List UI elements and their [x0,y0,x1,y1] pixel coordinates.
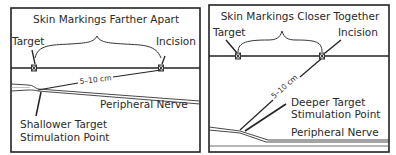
left-target-pointer [32,50,35,64]
diagram-canvas: Skin Markings Farther Apart Target Incis… [0,0,396,155]
right-target-label: Target [212,26,245,38]
right-target-x-mark-icon [236,53,241,59]
left-trajectory-line [113,70,161,77]
right-nerve-label: Peripheral Nerve [291,126,379,138]
left-stim-pointer [36,92,41,116]
right-panel-title: Skin Markings Closer Together [221,10,380,22]
right-trajectory-line [300,59,321,77]
right-incision-x-mark-icon [320,53,325,59]
left-panel-title: Skin Markings Farther Apart [33,13,179,25]
right-distance-brace [238,31,322,52]
left-target-x-mark-icon [32,65,37,71]
right-panel: Skin Markings Closer Together Target Inc… [209,5,389,152]
right-incision-label: Incision [338,26,378,38]
right-stim-label-line2: Stimulation Point [291,108,380,120]
left-target-label: Target [11,35,44,47]
right-target-pointer [226,40,237,53]
right-incision-pointer [325,40,341,53]
left-nerve-label: Peripheral Nerve [100,98,188,110]
left-incision-pointer [162,56,165,64]
left-distance-brace [35,36,161,58]
right-stim-label-line1: Deeper Target [291,96,365,108]
left-incision-label: Incision [156,35,196,47]
left-stim-label-line1: Shallower Target [20,118,107,130]
left-stim-label-line2: Stimulation Point [20,131,109,143]
left-panel: Skin Markings Farther Apart Target Incis… [11,8,200,152]
right-stim-pointer [245,104,286,131]
left-distance-label: 5–10 cm [79,73,112,86]
